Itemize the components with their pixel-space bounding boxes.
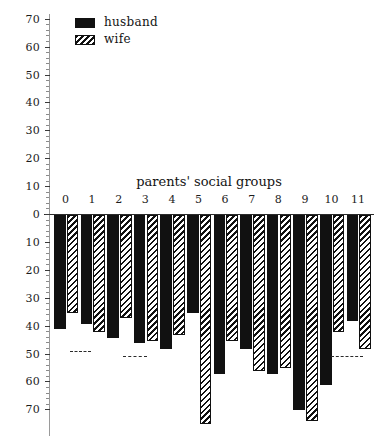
bar-wife-11 (359, 215, 371, 349)
reference-line-right-mean (331, 356, 363, 357)
y-axis-minor-tick (46, 359, 49, 360)
y-axis-minor-tick (46, 80, 49, 81)
y-axis-minor-tick (46, 52, 49, 53)
bar-husband-3 (134, 215, 146, 343)
y-axis-tick (45, 409, 50, 410)
y-axis-tick (45, 326, 50, 327)
bar-husband-4 (160, 215, 172, 349)
bar-wife-1 (93, 215, 105, 332)
y-axis-minor-tick (46, 264, 49, 265)
bar-husband-2 (107, 215, 119, 338)
legend-item-husband: husband (75, 14, 158, 31)
bar-husband-0 (54, 215, 66, 329)
y-axis-minor-tick (46, 197, 49, 198)
y-axis-tick (45, 242, 50, 243)
y-axis-tick-label: 50 (14, 70, 40, 81)
bar-wife-3 (147, 215, 159, 341)
y-axis-tick (45, 214, 50, 215)
y-axis-minor-tick (46, 147, 49, 148)
y-axis-tick-label: 70 (14, 404, 40, 415)
bar-wife-10 (333, 215, 345, 332)
y-axis-minor-tick (46, 136, 49, 137)
y-axis-tick (45, 381, 50, 382)
legend-label-husband: husband (104, 14, 158, 31)
y-axis-minor-tick (46, 169, 49, 170)
y-axis-tick-label: 20 (14, 153, 40, 164)
y-axis-minor-tick (46, 247, 49, 248)
y-axis-tick-label: 70 (14, 14, 40, 25)
bar-wife-6 (226, 215, 238, 341)
bar-wife-0 (67, 215, 79, 313)
solid-black-swatch-icon (75, 18, 95, 28)
y-axis-tick (45, 75, 50, 76)
y-axis-minor-tick (46, 69, 49, 70)
bar-husband-6 (214, 215, 226, 374)
y-axis-tick (45, 298, 50, 299)
y-axis-minor-tick (46, 348, 49, 349)
y-axis-tick-label: 40 (14, 97, 40, 108)
y-axis-minor-tick (46, 275, 49, 276)
y-axis-tick-label: 0 (14, 209, 40, 220)
y-axis-minor-tick (46, 303, 49, 304)
bar-husband-5 (187, 215, 199, 313)
y-axis-tick (45, 158, 50, 159)
y-axis-minor-tick (46, 393, 49, 394)
y-axis-minor-tick (46, 337, 49, 338)
y-axis-tick (45, 19, 50, 20)
y-axis-tick-label: 60 (14, 376, 40, 387)
y-axis-minor-tick (46, 292, 49, 293)
reference-line-wife-mean (123, 356, 147, 357)
y-axis-minor-tick (46, 259, 49, 260)
x-axis-group-label: 11 (343, 194, 374, 205)
chart-legend: husband wife (75, 14, 158, 48)
y-axis-minor-tick (46, 314, 49, 315)
y-axis-tick-label: 60 (14, 42, 40, 53)
y-axis-minor-tick (46, 404, 49, 405)
bar-wife-2 (120, 215, 132, 318)
y-axis-minor-tick (46, 203, 49, 204)
y-axis-minor-tick (46, 41, 49, 42)
y-axis-tick-label: 20 (14, 265, 40, 276)
legend-label-wife: wife (104, 31, 131, 48)
y-axis-minor-tick (46, 253, 49, 254)
y-axis-tick-label: 50 (14, 349, 40, 360)
bar-wife-8 (280, 215, 292, 368)
y-axis-minor-tick (46, 342, 49, 343)
y-axis-minor-tick (46, 30, 49, 31)
y-axis-line (49, 14, 50, 436)
y-axis-minor-tick (46, 91, 49, 92)
bar-husband-7 (240, 215, 252, 349)
y-axis-minor-tick (46, 141, 49, 142)
y-axis-minor-tick (46, 119, 49, 120)
y-axis-minor-tick (46, 114, 49, 115)
bar-wife-7 (253, 215, 265, 371)
y-axis-minor-tick (46, 97, 49, 98)
y-axis-minor-tick (46, 125, 49, 126)
y-axis-tick (45, 102, 50, 103)
y-axis-minor-tick (46, 287, 49, 288)
y-axis-minor-tick (46, 376, 49, 377)
bar-wife-9 (306, 215, 318, 421)
y-axis-minor-tick (46, 153, 49, 154)
bar-husband-1 (81, 215, 93, 324)
legend-item-wife: wife (75, 31, 158, 48)
y-axis-minor-tick (46, 236, 49, 237)
y-axis-minor-tick (46, 58, 49, 59)
y-axis-minor-tick (46, 24, 49, 25)
y-axis-tick-label: 40 (14, 321, 40, 332)
y-axis-minor-tick (46, 398, 49, 399)
y-axis-minor-tick (46, 331, 49, 332)
y-axis-tick-label: 30 (14, 293, 40, 304)
y-axis-minor-tick (46, 192, 49, 193)
bar-wife-4 (173, 215, 185, 335)
y-axis-minor-tick (46, 320, 49, 321)
y-axis-minor-tick (46, 220, 49, 221)
y-axis-minor-tick (46, 63, 49, 64)
y-axis-minor-tick (46, 225, 49, 226)
y-axis-minor-tick (46, 387, 49, 388)
y-axis-minor-tick (46, 309, 49, 310)
y-axis-tick (45, 270, 50, 271)
y-axis-minor-tick (46, 108, 49, 109)
y-axis-tick (45, 354, 50, 355)
y-axis-tick-label: 10 (14, 181, 40, 192)
